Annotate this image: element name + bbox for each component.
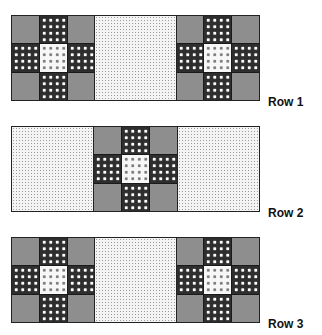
star-square	[204, 73, 231, 100]
row-1-label: Row 1	[268, 95, 303, 109]
nine-patch-block	[12, 16, 94, 100]
star-square	[204, 238, 231, 265]
star-square	[122, 127, 149, 154]
corner-square	[177, 295, 204, 322]
star-square	[232, 44, 259, 71]
plain-block	[94, 16, 176, 100]
star-square	[94, 155, 121, 182]
row-3-label: Row 3	[268, 317, 303, 331]
corner-square	[232, 295, 259, 322]
star-square	[40, 295, 67, 322]
corner-square	[68, 295, 95, 322]
corner-square	[232, 73, 259, 100]
corner-square	[150, 127, 177, 154]
center-square	[40, 44, 67, 71]
star-square	[12, 266, 39, 293]
row-2-label: Row 2	[268, 206, 303, 220]
corner-square	[177, 238, 204, 265]
star-square	[177, 266, 204, 293]
center-square	[204, 44, 231, 71]
corner-square	[177, 73, 204, 100]
star-square	[150, 155, 177, 182]
quilt-row-2	[11, 126, 260, 212]
corner-square	[232, 238, 259, 265]
corner-square	[232, 16, 259, 43]
corner-square	[12, 238, 39, 265]
corner-square	[12, 16, 39, 43]
star-square	[204, 295, 231, 322]
corner-square	[12, 73, 39, 100]
corner-square	[94, 184, 121, 211]
plain-block	[12, 127, 94, 211]
star-square	[40, 73, 67, 100]
plain-block	[177, 127, 259, 211]
corner-square	[68, 73, 95, 100]
star-square	[177, 44, 204, 71]
center-square	[122, 155, 149, 182]
quilt-row-1	[11, 15, 260, 101]
star-square	[232, 266, 259, 293]
nine-patch-block	[177, 238, 259, 322]
nine-patch-block	[94, 127, 176, 211]
star-square	[204, 16, 231, 43]
center-square	[204, 266, 231, 293]
star-square	[12, 44, 39, 71]
star-square	[40, 16, 67, 43]
quilt-row-3	[11, 237, 260, 323]
corner-square	[177, 16, 204, 43]
corner-square	[150, 184, 177, 211]
center-square	[40, 266, 67, 293]
nine-patch-block	[12, 238, 94, 322]
plain-block	[94, 238, 176, 322]
star-square	[122, 184, 149, 211]
corner-square	[94, 127, 121, 154]
corner-square	[68, 16, 95, 43]
corner-square	[12, 295, 39, 322]
star-square	[68, 266, 95, 293]
star-square	[40, 238, 67, 265]
nine-patch-block	[177, 16, 259, 100]
corner-square	[68, 238, 95, 265]
star-square	[68, 44, 95, 71]
